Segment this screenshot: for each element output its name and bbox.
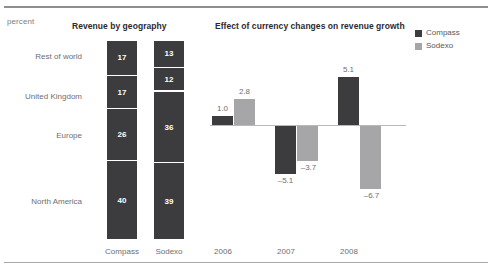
x-axis-label-2006: 2006	[201, 247, 245, 256]
value-label-sodexo-2006: 2.8	[227, 87, 262, 96]
chart-canvas: percent Revenue by geography Rest of wor…	[0, 0, 492, 274]
geo-label-rest-of-world: Rest of world	[0, 52, 82, 61]
legend-swatch-compass	[415, 30, 422, 37]
stack-segment-europe: 26	[107, 108, 137, 160]
x-axis-label-sodexo: Sodexo	[146, 247, 192, 256]
bar-sodexo-2007	[297, 126, 318, 161]
x-axis-label-compass: Compass	[99, 247, 145, 256]
x-axis-label-2008: 2008	[327, 247, 371, 256]
legend-label-sodexo: Sodexo	[426, 41, 453, 50]
bar-sodexo-2006	[234, 99, 255, 125]
legend-label-compass: Compass	[426, 28, 460, 37]
x-axis-label-2007: 2007	[264, 247, 308, 256]
stack-segment-rest-of-world: 17	[107, 41, 137, 75]
geo-label-united-kingdom: United Kingdom	[0, 92, 82, 101]
stack-segment-rest-of-world: 13	[154, 41, 184, 67]
geo-label-north-america: North America	[0, 197, 82, 206]
geo-label-europe: Europe	[0, 131, 82, 140]
value-label-sodexo-2007: –3.7	[291, 163, 326, 172]
bar-sodexo-2008	[360, 126, 381, 189]
value-label-sodexo-2008: –6.7	[354, 191, 389, 200]
value-label-compass-2007: –5.1	[268, 176, 303, 185]
stack-segment-north-america: 40	[107, 160, 137, 239]
top-divider-rule	[4, 6, 488, 8]
legend-swatch-sodexo	[415, 43, 422, 50]
stack-segment-europe: 36	[154, 91, 184, 162]
stack-segment-united-kingdom: 17	[107, 75, 137, 109]
unit-label: percent	[7, 17, 34, 26]
value-label-compass-2008: 5.1	[331, 65, 366, 74]
stacked-column-sodexo: 13 12 36 39	[154, 41, 184, 239]
bar-compass-2006	[212, 116, 233, 125]
stack-segment-united-kingdom: 12	[154, 67, 184, 91]
bar-compass-2008	[338, 77, 359, 125]
bottom-divider-rule	[4, 262, 488, 263]
right-chart-title: Effect of currency changes on revenue gr…	[215, 21, 405, 31]
stacked-column-compass: 17 17 26 40	[107, 41, 137, 239]
left-chart-title: Revenue by geography	[72, 21, 167, 31]
stack-segment-north-america: 39	[154, 162, 184, 239]
